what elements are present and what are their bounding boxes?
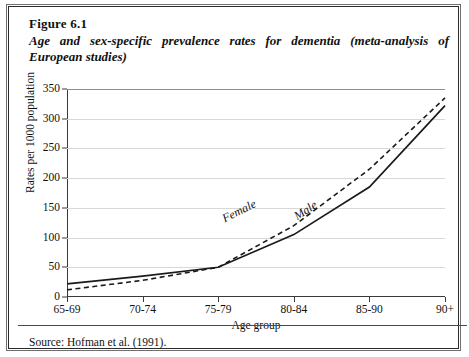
chart-lines [67, 89, 445, 297]
x-tick-label: 80-84 [280, 304, 307, 316]
y-tick-label: 50 [49, 262, 61, 274]
figure-caption: Figure 6.1 Age and sex-specific prevalen… [29, 15, 449, 65]
x-tick-mark [218, 297, 219, 302]
y-tick-label: 250 [43, 143, 60, 155]
series-line-female [67, 98, 445, 290]
series-line-male [67, 106, 445, 284]
x-tick-label: 70-74 [129, 304, 156, 316]
plot-area: 050100150200250300350 65-6970-7475-7980-… [67, 89, 445, 297]
x-tick-label: 90+ [436, 304, 454, 316]
x-tick-label: 85-90 [356, 304, 383, 316]
y-axis-title: Rates per 1000 population [25, 72, 37, 193]
y-tick-label: 100 [43, 232, 60, 244]
y-tick-label: 300 [43, 113, 60, 125]
y-tick-label: 0 [54, 291, 60, 303]
x-tick-mark [369, 297, 370, 302]
y-tick-label: 350 [43, 83, 60, 95]
y-tick-label: 150 [43, 202, 60, 214]
x-tick-mark [294, 297, 295, 302]
source-divider [18, 325, 467, 326]
y-tick-label: 200 [43, 172, 60, 184]
figure-box: Figure 6.1 Age and sex-specific prevalen… [8, 6, 459, 349]
x-tick-label: 75-79 [205, 304, 232, 316]
x-tick-label: 65-69 [54, 304, 81, 316]
source-note: Source: Hofman et al. (1991). [29, 337, 166, 349]
x-tick-mark [67, 297, 68, 302]
figure-number: Figure 6.1 [29, 15, 449, 32]
x-tick-mark [445, 297, 446, 302]
x-tick-mark [143, 297, 144, 302]
figure-title: Age and sex-specific prevalence rates fo… [29, 33, 449, 65]
